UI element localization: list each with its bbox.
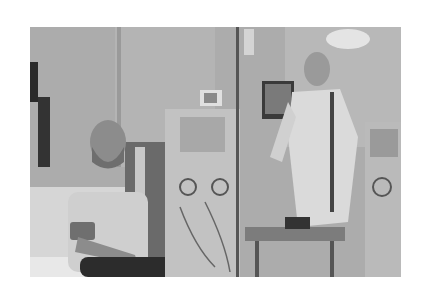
ceiling-light <box>326 29 370 49</box>
table-leg <box>255 241 259 277</box>
iv-pole <box>236 27 239 277</box>
side-table <box>245 227 345 241</box>
second-dialysis-machine <box>365 122 401 277</box>
table-leg <box>330 241 334 277</box>
iv-bag <box>244 29 254 55</box>
equipment-arm-lower <box>38 97 50 167</box>
tray <box>285 217 310 229</box>
equipment-arm <box>30 62 38 102</box>
dialysis-machine <box>165 90 240 277</box>
dialysis-room-photo <box>30 27 401 277</box>
photo-illustration <box>30 27 401 277</box>
